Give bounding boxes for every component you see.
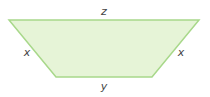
bottom-side-label: y: [100, 80, 108, 93]
trapezoid-shape: [9, 20, 199, 77]
left-side-label: x: [23, 46, 31, 59]
top-side-label: z: [100, 5, 107, 18]
right-side-label: x: [177, 46, 185, 59]
trapezoid-diagram: z y x x: [0, 0, 210, 97]
